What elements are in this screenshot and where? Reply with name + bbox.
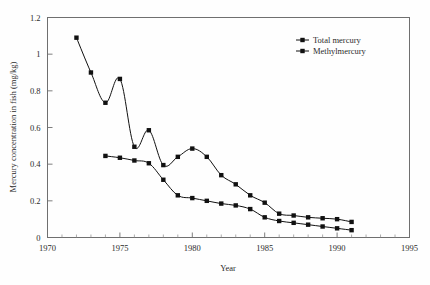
data-point (263, 200, 267, 204)
data-point (277, 219, 281, 223)
data-point (320, 224, 324, 228)
x-tick-label: 1995 (401, 243, 418, 253)
legend-marker (300, 49, 304, 53)
y-tick-label: 1.2 (30, 13, 41, 23)
data-point (277, 211, 281, 215)
x-tick-label: 1985 (256, 243, 273, 253)
y-tick-label: 0.4 (30, 159, 41, 169)
data-point (161, 163, 165, 167)
data-point (176, 193, 180, 197)
data-point (161, 178, 165, 182)
data-point (306, 222, 310, 226)
data-point (205, 155, 209, 159)
data-point (147, 161, 151, 165)
data-point (219, 201, 223, 205)
figure-background (0, 0, 430, 285)
data-point (103, 101, 107, 105)
data-point (190, 196, 194, 200)
data-point (132, 158, 136, 162)
data-point (349, 220, 353, 224)
x-axis-title: Year (220, 263, 236, 273)
data-point (234, 182, 238, 186)
data-point (291, 221, 295, 225)
data-point (335, 226, 339, 230)
data-point (219, 173, 223, 177)
legend-marker (300, 38, 304, 42)
y-tick-label: 0.8 (30, 86, 41, 96)
data-point (89, 70, 93, 74)
data-point (248, 207, 252, 211)
data-point (320, 216, 324, 220)
legend-label: Total mercury (313, 35, 362, 45)
y-tick-label: 0.6 (30, 123, 41, 133)
data-point (248, 193, 252, 197)
data-point (349, 228, 353, 232)
y-tick-label: 0 (36, 233, 40, 243)
data-point (190, 146, 194, 150)
x-tick-label: 1975 (111, 243, 128, 253)
data-point (74, 35, 78, 39)
data-point (291, 213, 295, 217)
y-axis-title: Mercury concentration in fish (mg/kg) (8, 61, 18, 192)
x-tick-label: 1980 (184, 243, 201, 253)
data-point (132, 145, 136, 149)
data-point (118, 77, 122, 81)
data-point (205, 199, 209, 203)
data-point (176, 155, 180, 159)
y-tick-label: 1 (36, 49, 40, 59)
data-point (306, 215, 310, 219)
data-point (103, 154, 107, 158)
chart-figure: 00.20.40.60.811.2 1970197519801985199019… (0, 0, 430, 285)
legend-label: Methylmercury (313, 46, 367, 56)
data-point (335, 217, 339, 221)
data-point (234, 203, 238, 207)
data-point (147, 128, 151, 132)
mercury-concentration-line-chart: 00.20.40.60.811.2 1970197519801985199019… (0, 0, 430, 285)
data-point (118, 156, 122, 160)
x-tick-label: 1990 (329, 243, 346, 253)
x-tick-label: 1970 (39, 243, 56, 253)
y-tick-label: 0.2 (30, 196, 41, 206)
data-point (263, 215, 267, 219)
